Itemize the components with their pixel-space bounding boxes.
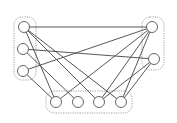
node-L3 — [18, 66, 29, 77]
node-groups — [14, 17, 164, 113]
node-L1 — [19, 22, 30, 33]
node-B3 — [94, 97, 105, 108]
node-L2 — [18, 44, 29, 55]
edge-L2-B2 — [23, 49, 78, 102]
node-R2 — [149, 54, 160, 65]
edge-L3-R1 — [23, 27, 152, 71]
node-B1 — [51, 97, 62, 108]
node-B2 — [73, 97, 84, 108]
node-B4 — [116, 97, 127, 108]
graph-diagram — [0, 0, 177, 123]
edge-L2-R2 — [23, 49, 154, 59]
node-R1 — [147, 22, 158, 33]
edge-R1-B1 — [56, 27, 152, 102]
edge-L1-B1 — [24, 27, 56, 102]
